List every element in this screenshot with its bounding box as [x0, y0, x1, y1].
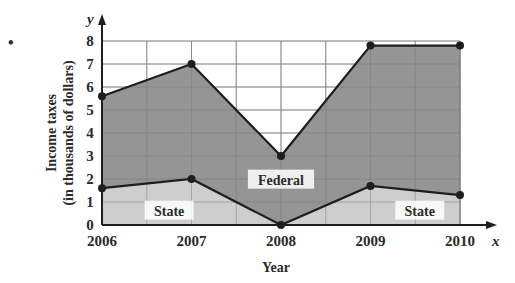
y-tick-label: 3: [86, 148, 94, 164]
y-axis-title-line1: Income taxes: [44, 93, 59, 172]
y-tick-label: 8: [86, 33, 94, 49]
x-axis-title: Year: [262, 260, 290, 275]
y-axis-title-line2: (in thousands of dollars): [61, 60, 77, 205]
y-axis-variable: y: [85, 11, 94, 27]
y-tick-label: 0: [86, 217, 94, 233]
y-tick-label: 1: [86, 194, 94, 210]
x-tick-label: 2008: [266, 233, 296, 249]
data-point: [277, 152, 285, 160]
bullet-marker: •: [8, 34, 14, 51]
x-tick-label: 2009: [356, 233, 386, 249]
region-label-state: State: [154, 204, 184, 219]
region-label-state: State: [405, 204, 435, 219]
y-tick-label: 7: [86, 56, 94, 72]
stacked-areas: [102, 41, 460, 225]
data-point: [456, 191, 464, 199]
y-axis-title: Income taxes (in thousands of dollars): [44, 60, 77, 205]
x-tick-label: 2010: [445, 233, 475, 249]
data-point: [188, 175, 196, 183]
x-axis-variable: x: [491, 233, 500, 249]
y-tick-label: 2: [86, 171, 94, 187]
y-tick-label: 6: [86, 79, 94, 95]
data-point: [188, 60, 196, 68]
data-point: [367, 182, 375, 190]
income-tax-chart: • 012345678 20062007200820092010 Federal…: [0, 0, 515, 283]
data-point: [456, 42, 464, 50]
x-tick-labels: 20062007200820092010: [87, 233, 475, 249]
x-tick-label: 2007: [177, 233, 208, 249]
x-axis-arrow-icon: [486, 221, 497, 229]
y-tick-labels: 012345678: [86, 33, 94, 233]
y-tick-label: 4: [86, 125, 94, 141]
x-tick-label: 2006: [87, 233, 118, 249]
y-tick-label: 5: [86, 102, 94, 118]
data-point: [367, 42, 375, 50]
region-label-federal: Federal: [258, 173, 304, 188]
y-axis-arrow-icon: [98, 14, 106, 25]
